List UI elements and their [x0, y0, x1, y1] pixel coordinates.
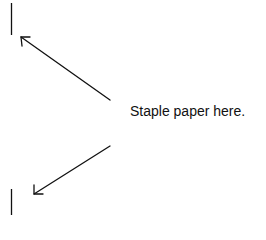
- arrow-down-left-icon: [34, 146, 110, 194]
- arrow-up-left-icon: [21, 37, 110, 100]
- staple-instruction-text: Staple paper here.: [130, 103, 245, 119]
